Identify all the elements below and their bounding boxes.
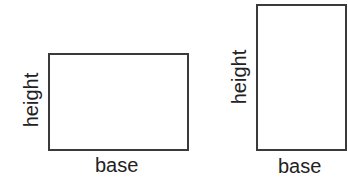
rectangle-tall bbox=[256, 4, 347, 151]
rectangle-wide bbox=[48, 53, 189, 151]
height-label-tall: height bbox=[229, 46, 249, 108]
height-label-wide: height bbox=[21, 69, 41, 131]
base-label-wide: base bbox=[95, 155, 138, 175]
base-label-tall: base bbox=[278, 156, 321, 176]
